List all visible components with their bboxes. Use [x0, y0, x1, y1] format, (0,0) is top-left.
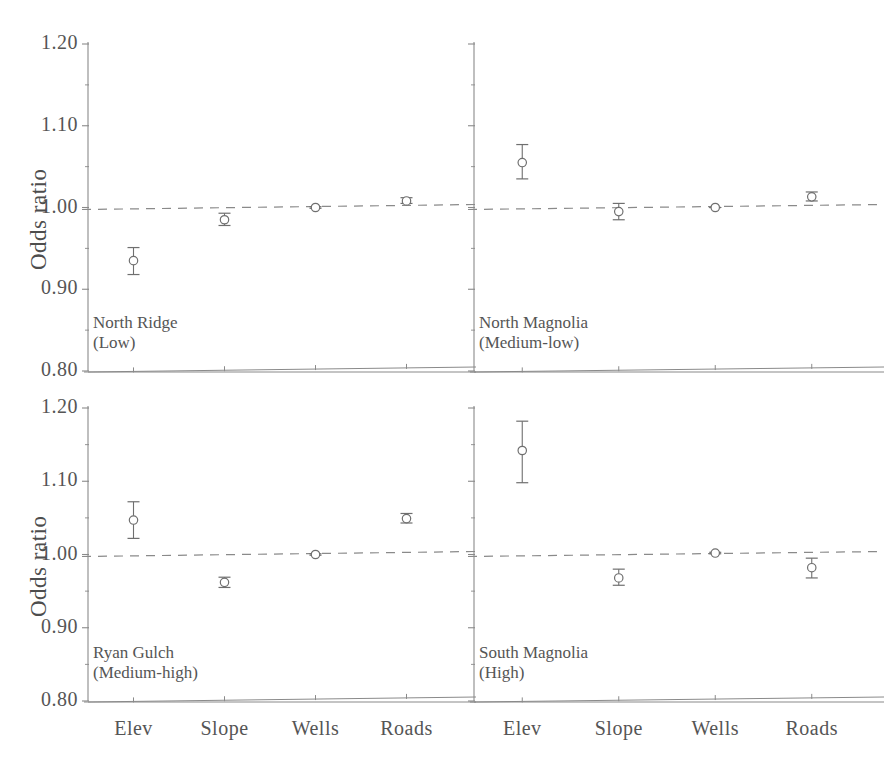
panel-caption-north-magnolia: North Magnolia(Medium-low): [479, 313, 588, 353]
data-point-north-magnolia-wells: [709, 203, 721, 211]
reference-line-1: [468, 552, 884, 557]
data-point-north-magnolia-slope: [613, 203, 625, 219]
data-point-south-magnolia-slope: [613, 569, 625, 585]
panel-caption-level: (Low): [93, 333, 178, 353]
x-axis-spine-skew: [474, 367, 884, 372]
marker-open-circle: [711, 549, 719, 557]
marker-open-circle: [129, 516, 137, 524]
panel-south-magnolia: South Magnolia(High): [0, 0, 884, 764]
y-tick-label: 0.90: [10, 276, 78, 299]
panel-plot-north-ridge: [0, 0, 884, 764]
marker-open-circle: [518, 158, 526, 166]
marker-open-circle: [808, 193, 816, 201]
y-tick-label: 0.80: [10, 358, 78, 381]
marker-open-circle: [402, 514, 410, 522]
x-axis-spine-skew: [474, 697, 884, 702]
panel-plot-north-magnolia: [0, 0, 884, 764]
data-point-south-magnolia-wells: [709, 549, 721, 557]
marker-open-circle: [615, 574, 623, 582]
y-tick-label: 1.20: [10, 31, 78, 54]
x-tick-label-elev: Elev: [472, 717, 572, 740]
panel-north-magnolia: North Magnolia(Medium-low): [0, 0, 884, 764]
panel-caption-name: South Magnolia: [479, 643, 588, 663]
x-tick-label-wells: Wells: [266, 717, 366, 740]
y-axis-label: Odds ratio: [26, 515, 52, 616]
data-point-south-magnolia-elev: [516, 421, 528, 483]
marker-open-circle: [311, 550, 319, 558]
y-tick-label: 0.90: [10, 615, 78, 638]
x-tick-label-roads: Roads: [357, 717, 457, 740]
panel-caption-north-ridge: North Ridge(Low): [93, 313, 178, 353]
panel-caption-name: Ryan Gulch: [93, 643, 198, 663]
data-point-north-magnolia-roads: [806, 192, 818, 201]
y-tick-label: 1.10: [10, 468, 78, 491]
y-axis-label: Odds ratio: [26, 168, 52, 269]
panel-ryan-gulch: Ryan Gulch(Medium-high): [0, 0, 884, 764]
y-tick-label: 0.80: [10, 688, 78, 711]
y-tick-label: 1.20: [10, 395, 78, 418]
marker-open-circle: [129, 256, 137, 264]
data-point-north-ridge-slope: [219, 213, 231, 225]
panel-north-ridge: North Ridge(Low): [0, 0, 884, 764]
panel-caption-level: (Medium-high): [93, 663, 198, 683]
data-point-north-ridge-wells: [310, 203, 322, 211]
panel-caption-level: (High): [479, 663, 588, 683]
data-point-ryan-gulch-elev: [128, 502, 140, 539]
x-axis-spine-skew: [88, 367, 476, 372]
panel-plot-ryan-gulch: [0, 0, 884, 764]
panel-caption-south-magnolia: South Magnolia(High): [479, 643, 588, 683]
x-tick-label-slope: Slope: [569, 717, 669, 740]
marker-open-circle: [311, 203, 319, 211]
figure-canvas: North Ridge(Low)North Magnolia(Medium-lo…: [0, 0, 884, 764]
panel-caption-ryan-gulch: Ryan Gulch(Medium-high): [93, 643, 198, 683]
data-point-north-ridge-roads: [401, 197, 413, 205]
marker-open-circle: [615, 207, 623, 215]
marker-open-circle: [220, 216, 228, 224]
marker-open-circle: [220, 578, 228, 586]
x-tick-label-roads: Roads: [762, 717, 862, 740]
marker-open-circle: [402, 197, 410, 205]
marker-open-circle: [711, 203, 719, 211]
panel-caption-name: North Magnolia: [479, 313, 588, 333]
data-point-ryan-gulch-wells: [310, 550, 322, 558]
panel-caption-name: North Ridge: [93, 313, 178, 333]
x-axis-spine-skew: [88, 697, 476, 702]
panel-plot-south-magnolia: [0, 0, 884, 764]
reference-line-1: [82, 205, 476, 210]
data-point-north-ridge-elev: [128, 248, 140, 275]
data-point-south-magnolia-roads: [806, 558, 818, 578]
reference-line-1: [82, 552, 476, 557]
x-tick-label-elev: Elev: [84, 717, 184, 740]
marker-open-circle: [518, 446, 526, 454]
x-tick-label-slope: Slope: [175, 717, 275, 740]
marker-open-circle: [808, 563, 816, 571]
data-point-ryan-gulch-slope: [219, 577, 231, 587]
y-tick-label: 1.10: [10, 113, 78, 136]
data-point-ryan-gulch-roads: [401, 513, 413, 523]
panel-caption-level: (Medium-low): [479, 333, 588, 353]
x-tick-label-wells: Wells: [665, 717, 765, 740]
data-point-north-magnolia-elev: [516, 145, 528, 179]
reference-line-1: [468, 205, 884, 210]
